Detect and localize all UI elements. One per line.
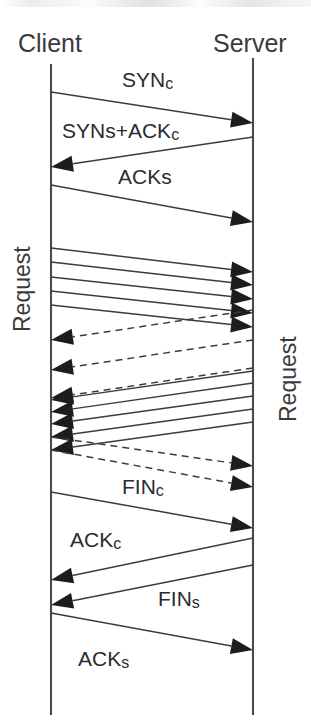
message-label-ackc: ACKc <box>70 528 121 552</box>
message-line-resp-3 <box>73 396 253 421</box>
message-label-fins: FINs <box>158 587 200 611</box>
message-line-resp-1 <box>73 371 253 397</box>
message-label-sync: SYNc <box>122 68 173 92</box>
arrowhead-fins <box>51 593 74 609</box>
participant-label-client: Client <box>18 29 82 57</box>
arrowhead-ack-back-2 <box>51 359 74 375</box>
arrowhead-syns-ackc <box>51 156 74 172</box>
arrowhead-acks-final <box>230 638 253 654</box>
message-line-acks-final <box>51 613 231 646</box>
arrowhead-resp-3 <box>51 413 74 429</box>
message-line-sync <box>51 92 231 120</box>
side-label-request-server: Request <box>275 336 301 422</box>
message-line-ack-fwd-1 <box>51 437 231 463</box>
message-line-ack-back-2 <box>73 340 253 367</box>
arrowhead-ack-fwd-2 <box>230 475 253 491</box>
sequence-diagram: Client Server Request Request SYNcSYNs+A… <box>0 0 311 728</box>
arrowhead-ackc <box>51 568 74 584</box>
message-line-resp-4 <box>73 409 253 434</box>
arrowhead-req-1 <box>230 261 253 277</box>
message-line-resp-5 <box>73 422 253 447</box>
arrowhead-finc <box>230 516 253 532</box>
message-line-acks <box>51 185 231 218</box>
participant-label-server: Server <box>213 29 287 57</box>
message-label-finc: FINc <box>122 475 164 499</box>
side-label-request-client: Request <box>9 246 35 332</box>
arrowhead-resp-5 <box>51 439 74 455</box>
message-labels-layer: SYNcSYNs+ACKcACKsFINcACKcFINsACKs <box>62 68 200 671</box>
arrowhead-req-2 <box>230 275 253 291</box>
arrowhead-ack-back-1 <box>51 329 74 345</box>
arrowhead-acks <box>230 210 253 226</box>
arrowhead-req-3 <box>230 289 253 305</box>
arrowhead-resp-4 <box>51 426 74 442</box>
sequence-diagram-canvas: Client Server Request Request SYNcSYNs+A… <box>0 0 311 728</box>
message-line-req-1 <box>51 248 231 269</box>
message-label-acks: ACKs <box>118 165 172 188</box>
message-label-syns-ackc: SYNs+ACKc <box>62 119 179 143</box>
message-line-resp-2 <box>73 383 253 409</box>
message-line-ack-back-3 <box>73 368 253 395</box>
arrowhead-sync <box>230 112 253 128</box>
arrowhead-ack-fwd-1 <box>230 455 253 471</box>
message-label-acks-final: ACKs <box>78 647 129 671</box>
arrowhead-req-5 <box>230 317 253 333</box>
